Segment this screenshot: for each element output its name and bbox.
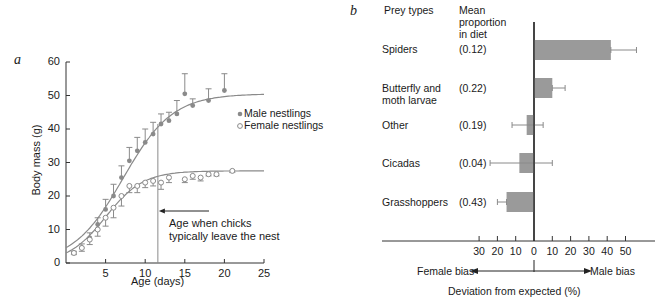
b-tick-label: 20 (561, 245, 581, 257)
x-tick-label: 5 (94, 267, 118, 279)
y-tick-label: 30 (42, 156, 60, 168)
x-tick-label: 20 (212, 267, 236, 279)
legend-female: Female nestlings (244, 119, 323, 131)
b-tick-label: 20 (487, 245, 507, 257)
column-header-mean-proportion: Mean proportion in diet (459, 4, 506, 40)
y-tick-label: 10 (42, 223, 60, 235)
row-prop-cicadas: (0.04) (459, 157, 486, 169)
annotation-line2: typically leave the nest (169, 230, 280, 243)
legend-male: Male nestlings (244, 107, 311, 119)
annotation-leave-nest: Age when chicks typically leave the nest (169, 217, 280, 243)
panel-a-x-label: Age (days) (131, 275, 184, 287)
column-header-prey-types: Prey types (384, 4, 434, 16)
y-tick-label: 0 (42, 256, 60, 268)
row-prop-other: (0.19) (459, 119, 486, 131)
row-prop-grasshoppers: (0.43) (459, 196, 486, 208)
row-label-spiders: Spiders (382, 43, 418, 55)
female-bias-label: Female bias (417, 265, 474, 277)
b-tick-label: 50 (616, 245, 636, 257)
b-tick-label: 0 (524, 245, 544, 257)
b-tick-label: 10 (542, 245, 562, 257)
panel-a-y-label: Body mass (g) (30, 120, 42, 200)
panel-b-x-label: Deviation from expected (%) (448, 285, 580, 297)
y-tick-label: 60 (42, 55, 60, 67)
row-prop-butterfly: (0.22) (459, 82, 486, 94)
row-label-other: Other (382, 119, 408, 131)
x-tick-label: 25 (252, 267, 276, 279)
b-tick-label: 10 (506, 245, 526, 257)
row-label-grasshoppers: Grasshoppers (382, 196, 448, 208)
male-bias-label: Male bias (590, 265, 635, 277)
panel-b-label: b (350, 3, 357, 19)
panel-b-plot (382, 22, 655, 274)
y-tick-label: 50 (42, 89, 60, 101)
header-line2: proportion (459, 16, 506, 28)
chart-svg (0, 0, 655, 306)
b-tick-label: 30 (579, 245, 599, 257)
y-tick-label: 20 (42, 189, 60, 201)
row-label-line2: moth larvae (382, 94, 441, 106)
b-tick-label: 40 (597, 245, 617, 257)
annotation-line1: Age when chicks (169, 217, 280, 230)
header-line3: in diet (459, 28, 506, 40)
b-tick-label: 30 (469, 245, 489, 257)
header-line1: Mean (459, 4, 506, 16)
row-label-butterfly: Butterfly and moth larvae (382, 82, 441, 106)
row-prop-spiders: (0.12) (459, 43, 486, 55)
row-label-line1: Butterfly and (382, 82, 441, 94)
y-tick-label: 40 (42, 122, 60, 134)
row-label-cicadas: Cicadas (382, 157, 420, 169)
